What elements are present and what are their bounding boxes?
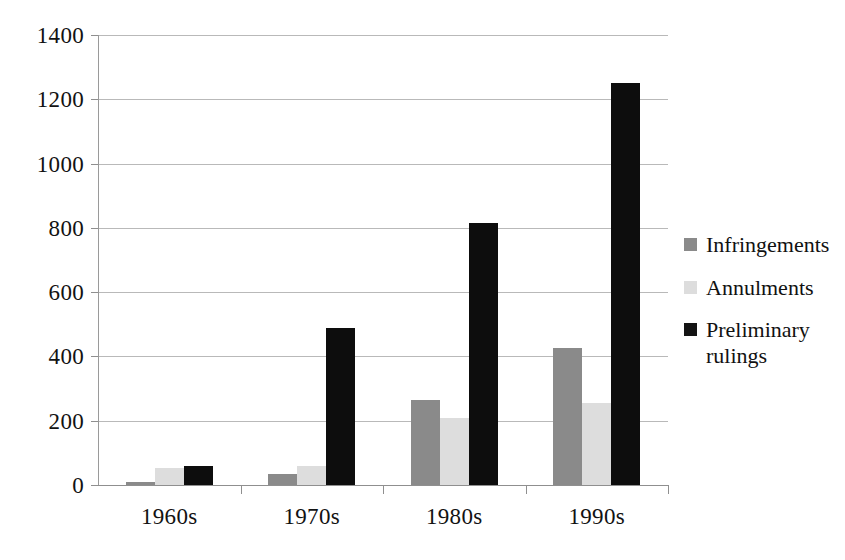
bar-1970s-infringements (268, 474, 297, 485)
y-tick-label: 200 (49, 409, 84, 432)
y-tick-mark (91, 35, 98, 36)
x-axis-tick (241, 485, 242, 494)
legend-swatch-icon (684, 238, 697, 251)
bar-1970s-preliminary-rulings (326, 328, 355, 486)
legend-label: Annulments (706, 275, 814, 301)
bar-group (383, 35, 526, 485)
y-tick-label: 600 (49, 281, 84, 304)
x-tick-label-1970s: 1970s (241, 505, 384, 528)
y-tick-label: 1400 (37, 24, 84, 47)
y-tick-mark (91, 421, 98, 422)
y-tick-mark (91, 99, 98, 100)
y-tick-mark (91, 485, 98, 486)
x-axis-tick (383, 485, 384, 494)
y-tick-label: 0 (72, 474, 84, 497)
bar-group (241, 35, 384, 485)
x-tick-label-1990s: 1990s (526, 505, 669, 528)
bar-group (98, 35, 241, 485)
x-tick-label-1960s: 1960s (98, 505, 241, 528)
legend-swatch-icon (684, 281, 697, 294)
x-axis-tick (668, 485, 669, 494)
y-tick-mark (91, 228, 98, 229)
legend-item-annulments[interactable]: Annulments (684, 275, 844, 301)
x-tick-label-1980s: 1980s (383, 505, 526, 528)
chart-legend: InfringementsAnnulmentsPreliminaryruling… (684, 232, 844, 385)
bar-1990s-annulments (582, 403, 611, 485)
bar-1980s-preliminary-rulings (469, 223, 498, 485)
y-tick-mark (91, 292, 98, 293)
y-axis-line (98, 35, 99, 485)
y-axis-labels: 0200400600800100012001400 (0, 35, 84, 485)
bar-1960s-preliminary-rulings (184, 466, 213, 485)
y-tick-label: 1200 (37, 88, 84, 111)
bar-1990s-preliminary-rulings (611, 83, 640, 485)
y-tick-mark (91, 356, 98, 357)
bar-1970s-annulments (297, 466, 326, 485)
y-tick-mark (91, 164, 98, 165)
bar-1980s-infringements (411, 400, 440, 485)
bar-1990s-infringements (553, 348, 582, 485)
bar-1960s-annulments (155, 468, 184, 485)
y-tick-label: 400 (49, 345, 84, 368)
bar-1980s-annulments (440, 418, 469, 485)
y-tick-label: 800 (49, 216, 84, 239)
plot-area (98, 35, 668, 485)
x-axis-tick (526, 485, 527, 494)
legend-label: Infringements (706, 232, 829, 258)
y-tick-label: 1000 (37, 152, 84, 175)
legend-item-infringements[interactable]: Infringements (684, 232, 844, 258)
legend-label: Preliminaryrulings (706, 317, 810, 368)
bar-chart: 0200400600800100012001400 1960s1970s1980… (0, 0, 845, 560)
legend-item-preliminary-rulings[interactable]: Preliminaryrulings (684, 317, 844, 368)
bar-group (526, 35, 669, 485)
legend-swatch-icon (684, 323, 697, 336)
